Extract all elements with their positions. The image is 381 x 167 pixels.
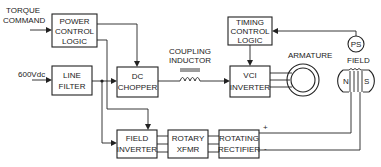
torque-command-label-1: TORQUE bbox=[6, 6, 40, 15]
arrow-icon bbox=[145, 124, 151, 130]
svg-text:LOGIC: LOGIC bbox=[62, 37, 87, 46]
svg-text:POWER: POWER bbox=[59, 17, 89, 26]
rectifier-minus-wire bbox=[259, 92, 360, 150]
svg-text:INVERTER: INVERTER bbox=[117, 145, 158, 154]
svg-text:ROTARY: ROTARY bbox=[172, 134, 205, 143]
svg-text:CHOPPER: CHOPPER bbox=[118, 83, 158, 92]
svg-text:DC: DC bbox=[132, 72, 144, 81]
dc-chopper-block: DC CHOPPER bbox=[117, 67, 158, 97]
pcl-to-chopper-wire bbox=[97, 24, 137, 64]
svg-text:CONTROL: CONTROL bbox=[230, 27, 270, 36]
line-filter-block: LINE FILTER bbox=[52, 66, 92, 95]
svg-text:N: N bbox=[343, 77, 349, 86]
svg-text:CONTROL: CONTROL bbox=[55, 27, 95, 36]
field-label: FIELD bbox=[347, 56, 370, 65]
svg-text:FILTER: FILTER bbox=[59, 82, 86, 91]
arrow-icon bbox=[111, 78, 117, 84]
svg-text:S: S bbox=[364, 77, 369, 86]
armature-label: ARMATURE bbox=[288, 51, 332, 60]
power-control-logic-block: POWER CONTROL LOGIC bbox=[52, 14, 97, 47]
ps-to-timing-wire bbox=[275, 31, 356, 36]
inductor-icon bbox=[180, 69, 200, 81]
dc-supply-label: 600Vdc bbox=[18, 70, 45, 79]
timing-control-logic-block: TIMING CONTROL LOGIC bbox=[228, 17, 272, 45]
minus-label: - bbox=[264, 144, 267, 153]
svg-text:LINE: LINE bbox=[63, 71, 81, 80]
coupling-inductor-label-1: COUPLING bbox=[169, 47, 211, 56]
svg-text:RECTIFIER: RECTIFIER bbox=[218, 145, 260, 154]
svg-text:INVERTER: INVERTER bbox=[230, 83, 271, 92]
svg-text:ROTATING: ROTATING bbox=[219, 134, 259, 143]
svg-text:PS: PS bbox=[351, 40, 362, 49]
arrow-icon bbox=[46, 27, 52, 33]
arrow-icon bbox=[247, 60, 253, 66]
field-inverter-block: FIELD INVERTER bbox=[117, 130, 158, 158]
field-winding-icon: N S bbox=[338, 69, 375, 93]
arrow-icon bbox=[134, 61, 140, 67]
rotary-xfmr-block: ROTARY XFMR bbox=[168, 130, 208, 158]
armature-icon bbox=[287, 64, 319, 96]
svg-text:XFMR: XFMR bbox=[177, 145, 200, 154]
coupling-inductor-label-2: INDUCTOR bbox=[169, 56, 211, 65]
svg-text:TIMING: TIMING bbox=[236, 18, 264, 27]
svg-text:LOGIC: LOGIC bbox=[238, 36, 263, 45]
arrow-icon bbox=[272, 28, 278, 34]
position-sensor: PS bbox=[348, 36, 364, 52]
svg-text:VCI: VCI bbox=[243, 71, 256, 80]
motor-drive-block-diagram: TORQUE COMMAND POWER CONTROL LOGIC 600Vd… bbox=[0, 0, 381, 167]
plus-label: + bbox=[263, 123, 268, 132]
arrow-icon bbox=[46, 77, 52, 83]
rectifier-plus-wire bbox=[259, 92, 351, 133]
vci-inverter-block: VCI INVERTER bbox=[230, 66, 271, 97]
svg-text:FIELD: FIELD bbox=[126, 134, 149, 143]
torque-command-label-2: COMMAND bbox=[3, 16, 45, 25]
filter-to-field-inverter-wire bbox=[102, 81, 114, 143]
rotating-rectifier-block: ROTATING RECTIFIER bbox=[218, 130, 260, 158]
